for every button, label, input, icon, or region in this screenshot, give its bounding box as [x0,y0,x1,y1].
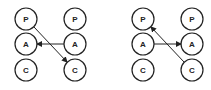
node-label: C [140,66,146,75]
diagram-2: PACPAC [132,8,203,81]
node-label: A [72,40,78,49]
node-label: A [23,40,29,49]
node-label: A [189,40,195,49]
node-label: C [23,66,29,75]
node-label: P [23,15,29,24]
node-a: A [132,33,154,55]
node-label: C [189,66,195,75]
node-a: A [181,33,203,55]
node-a: A [15,33,37,55]
node-c: C [64,59,86,81]
node-label: P [140,15,146,24]
node-p: P [64,8,86,30]
node-p: P [181,8,203,30]
node-c: C [15,59,37,81]
node-c: C [181,59,203,81]
node-a: A [64,33,86,55]
node-label: P [189,15,195,24]
node-label: C [72,66,78,75]
node-p: P [132,8,154,30]
diagram-canvas: PACPACPACPAC [0,0,211,90]
diagram-1: PACPAC [15,8,86,81]
node-label: P [72,15,78,24]
node-label: A [140,40,146,49]
node-p: P [15,8,37,30]
node-c: C [132,59,154,81]
